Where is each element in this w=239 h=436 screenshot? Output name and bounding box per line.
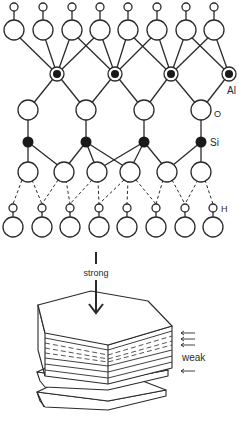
silicon-layer	[23, 137, 207, 148]
hydrogen-bonds	[13, 180, 213, 204]
top-hydroxyl-layer	[4, 3, 224, 40]
lower-hydroxyl-layer	[3, 204, 223, 237]
al-atom	[222, 67, 236, 81]
label-weak: weak	[181, 352, 206, 363]
label-strong: strong	[83, 268, 108, 278]
aluminium-layer	[50, 67, 236, 81]
apical-oxygen-layer	[18, 100, 211, 120]
diagram-stage: Al O Si H strong	[0, 0, 239, 436]
al-atom	[108, 67, 122, 81]
al-atom	[50, 67, 64, 81]
label-al: Al	[227, 85, 236, 96]
label-o: O	[214, 109, 221, 119]
label-si: Si	[210, 137, 219, 148]
al-atom	[164, 67, 178, 81]
label-h: H	[221, 204, 228, 214]
kaolinite-diagram: Al O Si H strong	[0, 0, 239, 436]
basal-oxygen-layer	[18, 162, 211, 182]
